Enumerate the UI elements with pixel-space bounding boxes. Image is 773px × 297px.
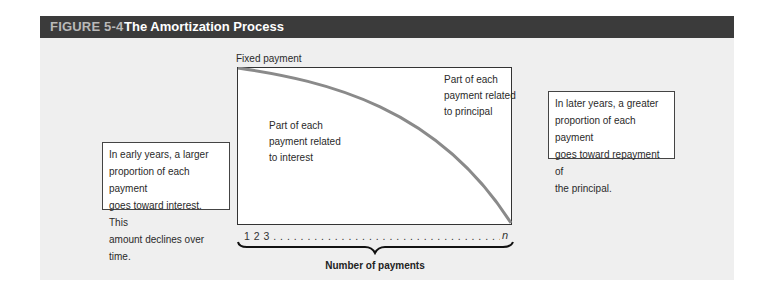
note-line: In later years, a greater bbox=[555, 95, 668, 112]
principal-region-label: Part of each payment related to principa… bbox=[444, 72, 516, 120]
label-line: to interest bbox=[269, 150, 341, 166]
label-line: Part of each bbox=[269, 118, 341, 134]
label-line: payment related bbox=[269, 134, 341, 150]
note-line: goes toward repayment of bbox=[555, 146, 668, 180]
later-years-note: In later years, a greater proportion of … bbox=[548, 91, 675, 159]
note-line: In early years, a larger bbox=[109, 146, 223, 163]
note-line: proportion of each payment bbox=[555, 112, 668, 146]
figure-number: FIGURE 5-4 bbox=[50, 18, 124, 36]
note-line: goes toward interest. This bbox=[109, 197, 223, 231]
label-line: Part of each bbox=[444, 72, 516, 88]
x-axis-end-label: n bbox=[502, 229, 508, 241]
x-axis-title: Number of payments bbox=[237, 260, 513, 271]
note-line: the principal. bbox=[555, 180, 668, 197]
brace-icon bbox=[237, 241, 515, 257]
fixed-payment-label: Fixed payment bbox=[236, 51, 302, 67]
label-line: payment related bbox=[444, 88, 516, 104]
figure-title: The Amortization Process bbox=[124, 18, 284, 36]
interest-region-label: Part of each payment related to interest bbox=[269, 118, 341, 166]
early-years-note: In early years, a larger proportion of e… bbox=[102, 142, 230, 210]
note-line: proportion of each payment bbox=[109, 163, 223, 197]
label-line: to principal bbox=[444, 104, 516, 120]
note-line: amount declines over time. bbox=[109, 231, 223, 265]
